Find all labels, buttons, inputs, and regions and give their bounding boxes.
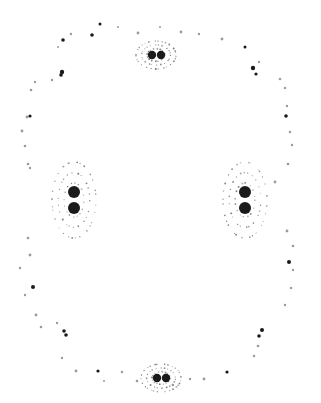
halo-dot <box>229 195 231 197</box>
halo-dot <box>252 175 253 176</box>
halo-dot <box>69 162 70 163</box>
halo-dot <box>175 56 177 58</box>
halo-dot <box>158 371 160 373</box>
halo-dot <box>179 372 180 373</box>
halo-dot <box>250 213 252 215</box>
halo-dot <box>150 50 151 51</box>
halo-dot <box>249 162 250 163</box>
contour-dot <box>203 378 206 381</box>
halo-dot <box>66 224 67 225</box>
contour-dot <box>180 31 183 34</box>
halo-dot <box>173 48 175 50</box>
contour-dot <box>57 46 59 48</box>
halo-dot <box>86 182 88 184</box>
halo-dot <box>150 384 152 386</box>
halo-dot <box>59 189 60 190</box>
halo-dot <box>224 214 226 216</box>
halo-dot <box>149 63 151 65</box>
halo-dot <box>157 60 159 62</box>
contour-dot <box>103 380 105 382</box>
halo-dot <box>168 59 169 60</box>
halo-dot <box>175 51 176 52</box>
halo-dot <box>64 206 65 207</box>
halo-dot <box>67 186 69 188</box>
halo-dot <box>242 216 244 218</box>
dot-pattern-image <box>0 0 321 403</box>
halo-dot <box>156 65 157 66</box>
contour-dot <box>70 33 72 35</box>
halo-dot <box>58 205 59 206</box>
halo-dot <box>143 370 145 372</box>
contour-dot <box>35 314 38 317</box>
halo-dot <box>142 383 143 384</box>
dark-blob <box>239 186 251 198</box>
halo-dot <box>160 367 162 369</box>
halo-dot <box>141 52 143 54</box>
dark-blob <box>153 374 161 382</box>
halo-dot <box>263 221 264 222</box>
halo-dot <box>170 55 171 56</box>
halo-dot <box>54 218 55 219</box>
halo-dot <box>159 383 161 385</box>
contour-dot <box>56 322 58 324</box>
contour-dot <box>90 33 94 37</box>
contour-dot <box>257 345 260 348</box>
halo-dot <box>151 60 153 62</box>
halo-dot <box>52 210 53 211</box>
halo-dot <box>154 364 156 366</box>
halo-dot <box>155 68 157 70</box>
halo-dot <box>254 196 255 197</box>
halo-dot <box>264 183 266 185</box>
halo-dot <box>146 377 148 379</box>
contour-dot <box>284 304 286 306</box>
contour-dot <box>51 79 53 81</box>
halo-dot <box>260 193 261 194</box>
halo-dot <box>258 186 259 187</box>
halo-dot <box>140 378 141 379</box>
halo-dot <box>87 187 89 189</box>
halo-dot <box>156 48 158 50</box>
halo-dot <box>247 172 248 173</box>
halo-dot <box>223 190 225 192</box>
halo-dot <box>154 386 155 387</box>
halo-dots <box>51 40 268 392</box>
halo-dot <box>228 174 229 175</box>
halo-dot <box>151 64 152 65</box>
halo-dot <box>142 44 143 45</box>
halo-dot <box>89 193 91 195</box>
contour-dot <box>30 89 33 92</box>
contour-dot <box>290 287 292 289</box>
halo-dot <box>137 49 138 50</box>
halo-dot <box>241 237 243 239</box>
contour-dot <box>24 294 26 296</box>
halo-dot <box>150 68 151 69</box>
halo-dot <box>58 198 59 199</box>
halo-dot <box>179 383 181 385</box>
contour-dot <box>284 87 286 89</box>
halo-dot <box>51 198 53 200</box>
halo-dot <box>73 216 74 217</box>
halo-dot <box>82 209 84 211</box>
halo-dot <box>63 179 64 180</box>
contour-dot <box>284 114 288 118</box>
halo-dot <box>166 383 167 384</box>
halo-dot <box>173 60 175 62</box>
contour-dot <box>121 371 123 373</box>
halo-dot <box>231 168 233 170</box>
halo-dot <box>59 228 60 229</box>
contour-dot <box>292 245 295 248</box>
halo-dot <box>52 206 53 207</box>
halo-dot <box>77 225 79 227</box>
contour-dot <box>40 326 43 329</box>
contour-dot <box>59 73 63 77</box>
halo-dot <box>88 211 90 213</box>
halo-dot <box>146 67 147 68</box>
contour-dot <box>221 38 224 41</box>
contour-dot <box>254 72 257 75</box>
halo-dot <box>83 165 85 167</box>
halo-dot <box>86 217 87 218</box>
halo-dot <box>161 41 162 42</box>
halo-dot <box>240 225 241 226</box>
contour-dot <box>62 329 66 333</box>
halo-dot <box>161 59 162 60</box>
